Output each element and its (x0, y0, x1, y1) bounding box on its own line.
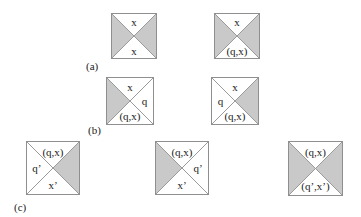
tile-label-top: x (127, 81, 133, 92)
tile-label-top: x (234, 17, 240, 28)
tile-label-top: (q,x) (305, 147, 326, 158)
panel-label: (c) (14, 202, 26, 213)
tile-label-bottom: (q,x) (119, 111, 140, 122)
panel-label: (a) (86, 61, 98, 72)
wang-tile-b1: xq(q,x) (106, 77, 154, 125)
tile-label-top: (q,x) (171, 146, 192, 157)
panel-label: (b) (88, 125, 101, 136)
tile-label-top: x (131, 17, 137, 28)
tile-label-bottom: (q’,x’) (301, 181, 329, 192)
wang-tile-a2: x(q,x) (214, 13, 260, 59)
tile-label-top: x (232, 81, 238, 92)
wang-tile-b2: xq(q,x) (211, 77, 259, 125)
tile-label-right: q’ (194, 163, 203, 174)
tile-label-left: q’ (32, 163, 41, 174)
tile-label-bottom: (q,x) (224, 111, 245, 122)
shaded-triangle-right (134, 13, 157, 59)
wang-tile-c1: (q,x)q’x’ (26, 141, 80, 195)
tile-label-top: (q,x) (42, 146, 63, 157)
tile-label-left: q (218, 96, 224, 107)
wang-tile-a1: xx (111, 13, 157, 59)
tile-label-bottom: (q,x) (226, 45, 247, 56)
tile-label-bottom: x (131, 45, 137, 56)
tile-label-bottom: x’ (48, 180, 57, 191)
wang-tile-c3: (q,x)(q’,x’) (288, 141, 343, 196)
wang-tile-c2: (q,x)q’x’ (155, 141, 209, 195)
tile-label-bottom: x’ (177, 180, 186, 191)
tile-label-right: q (142, 96, 148, 107)
